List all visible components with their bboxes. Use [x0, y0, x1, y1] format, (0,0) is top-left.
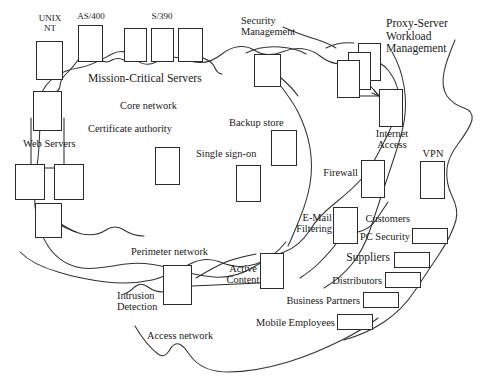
label-web-servers: Web Servers [23, 138, 73, 149]
label-business-partners: Business Partners [285, 295, 360, 306]
label-firewall: Firewall [311, 167, 358, 178]
label-vpn: VPN [413, 148, 453, 159]
node-web-server-left[interactable] [15, 164, 45, 200]
node-as400[interactable] [78, 25, 103, 62]
node-business-partners[interactable] [363, 292, 399, 308]
node-unix-nt[interactable] [36, 41, 63, 80]
arrow-head-internet-access [372, 90, 379, 96]
label-customers: Customers [352, 213, 410, 224]
label-active-content: Active Content [222, 263, 264, 285]
label-proxy-server-workload-management: Proxy-Server Workload Management [386, 18, 448, 56]
label-access-network: Access network [147, 330, 213, 341]
node-web-server-right[interactable] [54, 164, 84, 200]
label-mission-critical-servers: Mission-Critical Servers [88, 73, 202, 86]
connector-security-to-core [281, 78, 298, 96]
label-intrusion-detection: Intrusion Detection [117, 290, 157, 312]
node-web-server-bottom[interactable] [35, 203, 62, 238]
node-suppliers[interactable] [394, 252, 430, 268]
label-distributors: Distributors [322, 275, 382, 286]
node-mission-server-4[interactable] [178, 28, 203, 62]
node-web-server-top[interactable] [33, 91, 62, 131]
node-distributors[interactable] [385, 272, 421, 288]
node-intrusion-detection[interactable] [163, 265, 192, 305]
connector-as400-to-server2 [101, 59, 124, 62]
label-backup-store: Backup store [229, 117, 284, 128]
label-s390: S/390 [137, 12, 187, 22]
node-firewall[interactable] [361, 160, 385, 198]
label-perimeter-network: Perimeter network [131, 246, 208, 257]
node-mission-server-2[interactable] [124, 28, 147, 62]
label-security-management: Security Management [241, 15, 295, 37]
label-certificate-authority: Certificate authority [88, 123, 172, 134]
node-backup-store[interactable] [271, 130, 297, 166]
label-mobile-employees: Mobile Employees [256, 317, 334, 328]
node-s390[interactable] [151, 28, 174, 62]
node-single-sign-on[interactable] [236, 165, 261, 202]
label-as400: AS/400 [66, 12, 116, 22]
node-proxy-server-front[interactable] [337, 60, 360, 98]
label-suppliers: Suppliers [330, 252, 390, 265]
node-certificate-authority[interactable] [155, 147, 180, 185]
node-security-management[interactable] [254, 54, 281, 87]
node-mobile-employees[interactable] [337, 314, 373, 330]
label-email-filtering: E-Mail Filtering [287, 212, 332, 234]
label-core-network: Core network [120, 100, 177, 111]
node-internet-access[interactable] [379, 89, 403, 127]
proxy-zone-curve [326, 43, 354, 48]
label-single-sign-on: Single sign-on [196, 148, 256, 159]
label-pc-security: PC Security [350, 231, 410, 242]
node-vpn[interactable] [420, 161, 445, 199]
label-internet-access: Internet Access [368, 128, 416, 150]
node-customers[interactable] [412, 228, 448, 244]
network-architecture-diagram: UNIX NT AS/400 S/390 Mission-Critical Se… [0, 0, 489, 387]
